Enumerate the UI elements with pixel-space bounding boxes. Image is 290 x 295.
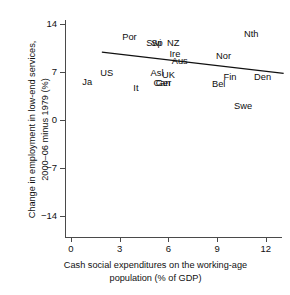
data-point-label: Den: [254, 72, 271, 82]
x-tick: [168, 237, 169, 242]
x-tick: [71, 237, 72, 242]
y-tick: [60, 120, 65, 121]
y-tick-label: 0: [17, 114, 57, 125]
data-point-label: Ger: [156, 78, 172, 88]
x-tick-label: 6: [153, 243, 183, 254]
data-point-label: Aus: [172, 56, 188, 66]
y-tick-label: 14: [17, 18, 57, 29]
data-point-label: Nor: [216, 51, 231, 61]
data-point-label: Swe: [234, 101, 252, 111]
x-tick-label: 12: [251, 243, 281, 254]
data-point-label: US: [100, 68, 113, 78]
x-tick: [266, 237, 267, 242]
data-point-label: It: [133, 83, 138, 93]
x-axis-title: Cash social expenditures on the working-…: [28, 259, 283, 284]
y-tick: [60, 216, 65, 217]
y-tick-label: 7: [17, 66, 57, 77]
data-point-label: Ja: [82, 77, 92, 87]
y-axis-line: [65, 20, 66, 237]
y-tick-label: −14: [17, 210, 57, 221]
y-tick-label: −7: [17, 162, 57, 173]
x-tick-label: 9: [202, 243, 232, 254]
y-tick: [60, 72, 65, 73]
x-tick-label: 3: [105, 243, 135, 254]
x-tick: [120, 237, 121, 242]
x-tick-label: 0: [56, 243, 86, 254]
data-point-label: Sp: [151, 38, 162, 48]
data-point-label: Fin: [224, 72, 237, 82]
data-point-label: Nth: [244, 29, 258, 39]
y-tick: [60, 24, 65, 25]
scatter-chart: Change in employment in low-end services…: [0, 0, 290, 295]
x-tick: [217, 237, 218, 242]
data-point-label: NZ: [167, 38, 179, 48]
y-tick: [60, 168, 65, 169]
x-axis-line: [65, 237, 282, 238]
data-point-label: Por: [122, 32, 136, 42]
